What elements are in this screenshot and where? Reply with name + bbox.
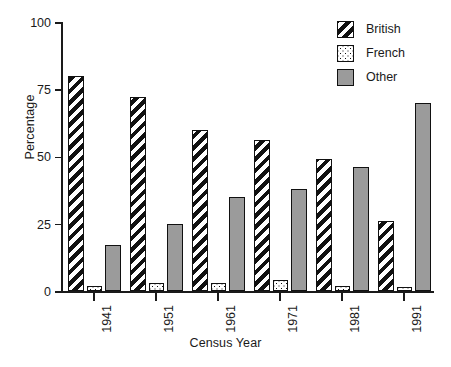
bar-other-1961 xyxy=(229,197,245,291)
bar-other-1981 xyxy=(353,167,369,291)
x-tick-label-1941: 1941 xyxy=(100,305,114,333)
x-tick-label-1951: 1951 xyxy=(162,305,176,333)
y-tick-0: 0 xyxy=(55,291,62,293)
x-tick-label-1971: 1971 xyxy=(286,305,300,333)
x-axis-line xyxy=(61,291,434,293)
bar-british-1971 xyxy=(254,140,270,291)
bar-chart: Percentage Census Year 0255075100 194119… xyxy=(0,0,451,367)
y-tick-25: 25 xyxy=(55,224,62,226)
bar-french-1981 xyxy=(335,286,351,291)
legend-label-other: Other xyxy=(366,70,397,84)
y-tick-label-50: 50 xyxy=(37,150,51,164)
bar-british-1941 xyxy=(68,76,84,291)
x-tick-1981 xyxy=(341,293,343,301)
x-tick-label-1961: 1961 xyxy=(224,305,238,333)
bar-french-1991 xyxy=(397,287,413,291)
legend-swatch-british-icon xyxy=(337,21,354,38)
bar-british-1961 xyxy=(192,130,208,291)
bar-french-1961 xyxy=(211,283,227,291)
y-tick-label-75: 75 xyxy=(37,83,51,97)
y-tick-50: 50 xyxy=(55,157,62,159)
legend-item-other: Other xyxy=(337,65,447,89)
legend-label-french: French xyxy=(366,46,405,60)
bar-other-1951 xyxy=(167,224,183,291)
y-tick-label-100: 100 xyxy=(30,16,51,30)
y-axis-label: Percentage xyxy=(23,47,37,207)
bar-other-1991 xyxy=(415,103,431,291)
y-tick-100: 100 xyxy=(55,22,62,24)
legend-item-french: French xyxy=(337,41,447,65)
y-tick-75: 75 xyxy=(55,89,62,91)
bar-british-1991 xyxy=(378,221,394,291)
x-tick-1991 xyxy=(403,293,405,301)
x-tick-label-1981: 1981 xyxy=(348,305,362,333)
bar-british-1981 xyxy=(316,159,332,291)
legend-swatch-french-icon xyxy=(337,45,354,62)
bar-french-1941 xyxy=(87,286,103,291)
legend-item-british: British xyxy=(337,17,447,41)
x-tick-1961 xyxy=(217,293,219,301)
y-tick-label-0: 0 xyxy=(44,285,51,299)
x-tick-1951 xyxy=(155,293,157,301)
x-tick-label-1991: 1991 xyxy=(410,305,424,333)
x-axis-label: Census Year xyxy=(0,336,451,350)
legend-label-british: British xyxy=(366,22,401,36)
bar-french-1971 xyxy=(273,280,289,291)
legend-swatch-other-icon xyxy=(337,69,354,86)
bar-british-1951 xyxy=(130,97,146,291)
bar-french-1951 xyxy=(149,283,165,291)
x-tick-1971 xyxy=(279,293,281,301)
y-tick-label-25: 25 xyxy=(37,218,51,232)
legend: British French Other xyxy=(337,17,447,89)
bar-other-1971 xyxy=(291,189,307,291)
x-tick-1941 xyxy=(93,293,95,301)
bar-other-1941 xyxy=(105,245,121,291)
